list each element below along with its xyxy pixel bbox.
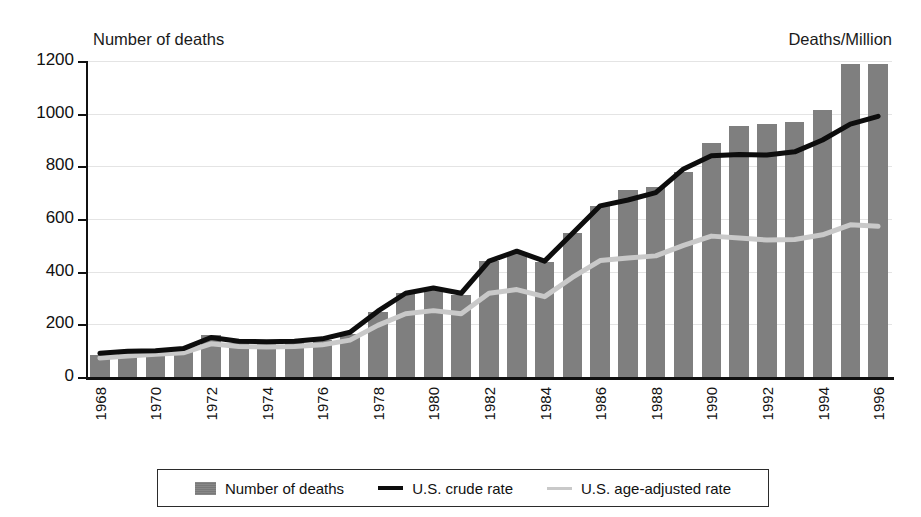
y-tick-label: 0 (18, 366, 74, 386)
x-axis-line (86, 377, 894, 380)
y-tick-label: 1200 (18, 50, 74, 70)
legend-bar-swatch-icon (195, 482, 216, 495)
x-tick-label: 1978 (370, 387, 387, 420)
x-tick-label: 1970 (147, 387, 164, 420)
x-tick-label: 1972 (203, 387, 220, 420)
x-tick-label: 1968 (92, 387, 109, 420)
y-tick (78, 166, 86, 168)
chart-figure: Number of deaths Deaths/Million 12001000… (0, 0, 921, 517)
y-tick-label: 400 (18, 261, 74, 281)
x-tick-label: 1990 (703, 387, 720, 420)
y-axis-line (86, 61, 88, 379)
legend-item: U.S. age-adjusted rate (547, 480, 731, 497)
y-tick (78, 219, 86, 221)
x-tick-label: 1994 (815, 387, 832, 420)
x-tick-label: 1980 (425, 387, 442, 420)
y-tick-label: 200 (18, 313, 74, 333)
x-tick-label: 1988 (648, 387, 665, 420)
y-tick (78, 324, 86, 326)
plot-area (86, 61, 892, 377)
legend-light-line-icon (547, 487, 572, 490)
legend-dark-line-icon (378, 486, 403, 490)
legend-item: U.S. crude rate (378, 480, 513, 497)
legend-label: U.S. age-adjusted rate (581, 480, 731, 497)
crude-rate-line (100, 116, 878, 353)
left-axis-title: Number of deaths (93, 30, 224, 49)
x-tick-label: 1986 (592, 387, 609, 420)
y-tick-label: 800 (18, 155, 74, 175)
legend-label: U.S. crude rate (412, 480, 513, 497)
y-tick-label: 600 (18, 208, 74, 228)
x-tick-label: 1982 (481, 387, 498, 420)
y-tick (78, 61, 86, 63)
x-tick-label: 1992 (759, 387, 776, 420)
x-tick-label: 1984 (537, 387, 554, 420)
x-tick-label: 1996 (870, 387, 887, 420)
legend-label: Number of deaths (225, 480, 344, 497)
right-axis-title: Deaths/Million (788, 30, 892, 49)
line-series (86, 61, 892, 377)
x-tick-label: 1974 (259, 387, 276, 420)
y-tick (78, 377, 86, 379)
x-tick-label: 1976 (314, 387, 331, 420)
y-tick (78, 114, 86, 116)
chart-legend: Number of deathsU.S. crude rateU.S. age-… (157, 469, 769, 507)
y-tick-label: 1000 (18, 103, 74, 123)
legend-item: Number of deaths (195, 480, 344, 497)
y-tick (78, 272, 86, 274)
